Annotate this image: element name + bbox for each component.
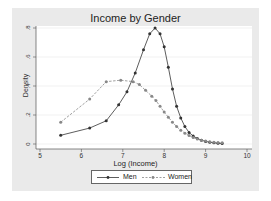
svg-text:9: 9 — [204, 152, 208, 159]
svg-text:7: 7 — [121, 152, 125, 159]
y-axis-label: Density — [22, 71, 29, 101]
legend-women: Women — [168, 173, 192, 180]
svg-text:.8: .8 — [25, 25, 31, 31]
svg-text:6: 6 — [80, 152, 84, 159]
x-axis-label: Log (Income) — [0, 159, 271, 168]
svg-text:.6: .6 — [25, 54, 31, 60]
svg-text:.2: .2 — [25, 112, 31, 118]
legend: Men Women — [91, 170, 192, 184]
svg-text:10: 10 — [243, 152, 251, 159]
legend-men: Men — [123, 173, 137, 180]
svg-text:5: 5 — [38, 152, 42, 159]
svg-text:0: 0 — [25, 142, 31, 146]
svg-text:8: 8 — [162, 152, 166, 159]
